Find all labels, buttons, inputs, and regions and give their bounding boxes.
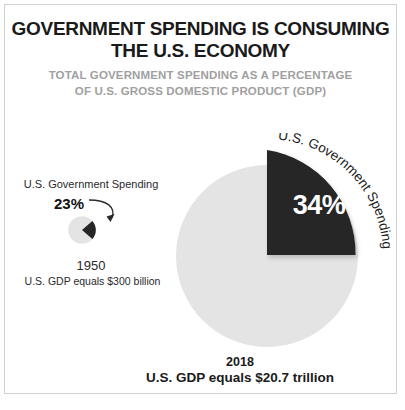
page-subtitle: TOTAL GOVERNMENT SPENDING AS A PERCENTAG… xyxy=(5,67,396,99)
headline-line-2: THE U.S. ECONOMY xyxy=(5,40,396,62)
headline-line-1: GOVERNMENT SPENDING IS CONSUMING xyxy=(5,18,396,40)
pie-2018-year: 2018 xyxy=(115,355,365,369)
pie-chart-1950 xyxy=(67,215,97,245)
pie-chart-2018: U.S. Government Spending xyxy=(163,133,393,365)
subhead-line-1: TOTAL GOVERNMENT SPENDING AS A PERCENTAG… xyxy=(5,67,396,83)
subhead-line-2: OF U.S. GROSS DOMESTIC PRODUCT (GDP) xyxy=(5,83,396,99)
infographic-frame: GOVERNMENT SPENDING IS CONSUMING THE U.S… xyxy=(4,4,397,394)
pie-1950-gdp-note: U.S. GDP equals $300 billion xyxy=(5,275,180,287)
pie-1950-year: 1950 xyxy=(11,258,171,273)
pie-1950-series-label: U.S. Government Spending xyxy=(11,178,171,190)
page-title: GOVERNMENT SPENDING IS CONSUMING THE U.S… xyxy=(5,18,396,62)
pie-2018-gdp-note: U.S. GDP equals $20.7 trillion xyxy=(85,370,395,385)
pie-2018-percent-label: 34% xyxy=(284,190,354,221)
